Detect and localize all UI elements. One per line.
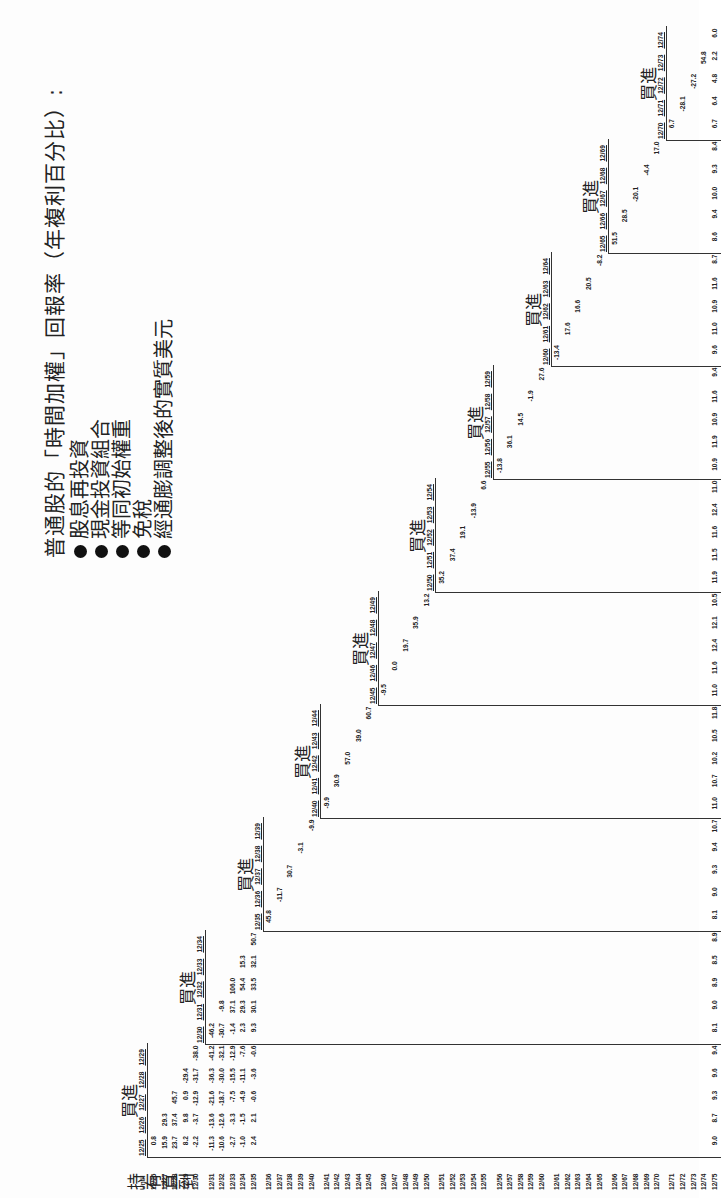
table-cell: 11.5 <box>711 548 718 568</box>
column-header: 12/60 <box>542 348 549 365</box>
table-cell: 12.4 <box>711 639 718 659</box>
table-cell: 15.3 <box>239 955 246 975</box>
row-label: 12/62 <box>564 1173 571 1190</box>
table-cell: 11.6 <box>711 277 718 297</box>
row-label: 12/53 <box>459 1173 466 1190</box>
table-cell: 36.1 <box>506 435 513 455</box>
row-label: 12/69 <box>643 1173 650 1190</box>
table-cell: 8.4 <box>711 142 718 162</box>
table-cell: -3.7 <box>192 1113 199 1133</box>
table-cell: -2.7 <box>229 1136 236 1156</box>
table-cell: 2.4 <box>250 1136 257 1156</box>
row-label: 12/38 <box>286 1173 293 1190</box>
column-header: 12/56 <box>484 439 491 456</box>
table-cell: -9.9 <box>308 820 315 840</box>
row-label: 12/51 <box>438 1173 445 1190</box>
table-cell: 9.4 <box>711 209 718 229</box>
table-cell: 12.1 <box>711 616 718 636</box>
table-cell: 6.7 <box>711 119 718 139</box>
table-cell: -10.6 <box>218 1136 225 1156</box>
column-header: 12/51 <box>426 552 433 569</box>
buy-label: 買進 <box>232 858 257 892</box>
table-cell: 10.5 <box>711 729 718 749</box>
table-cell: 37.1 <box>229 1000 236 1020</box>
buy-label: 買進 <box>289 745 314 779</box>
table-cell: 28.5 <box>621 209 628 229</box>
row-label: 12/74 <box>700 1173 707 1190</box>
table-cell: 2.1 <box>250 1113 257 1133</box>
table-cell: -11.3 <box>208 1136 215 1156</box>
column-header: 12/65 <box>599 235 606 252</box>
table-cell: 9.3 <box>711 865 718 885</box>
table-cell: 0.9 <box>182 1091 189 1111</box>
row-label: 12/63 <box>574 1173 581 1190</box>
row-label: 12/37 <box>276 1173 283 1190</box>
row-label: 12/49 <box>412 1173 419 1190</box>
header-rule <box>320 704 321 819</box>
table-cell: 27.6 <box>538 368 545 388</box>
table-cell: 9.6 <box>711 1068 718 1088</box>
column-header: 12/34 <box>196 936 203 953</box>
table-cell: -3.3 <box>229 1113 236 1133</box>
table-cell: -13.9 <box>470 503 477 523</box>
table-cell: -12.9 <box>229 1046 236 1066</box>
table-cell: -8.2 <box>596 255 603 275</box>
buy-label: 買進 <box>520 293 545 327</box>
table-cell: 6.4 <box>711 96 718 116</box>
row-label: 12/66 <box>611 1173 618 1190</box>
table-cell: -27.2 <box>690 74 697 94</box>
table-cell: 11.9 <box>711 435 718 455</box>
table-cell: 4.8 <box>711 74 718 94</box>
table-cell: 11.6 <box>711 390 718 410</box>
buy-label: 買進 <box>404 519 429 553</box>
row-label: 12/52 <box>449 1173 456 1190</box>
column-header: 12/45 <box>369 687 376 704</box>
block-rule <box>147 1157 720 1158</box>
row-label: 12/46 <box>380 1173 387 1190</box>
block-rule <box>205 1044 721 1045</box>
header-rule <box>205 930 206 1045</box>
row-label: 12/29 <box>182 1173 189 1190</box>
table-cell: -13.8 <box>496 458 503 478</box>
table-cell: 19.1 <box>459 526 466 546</box>
table-cell: -1.9 <box>527 390 534 410</box>
table-cell: 0.0 <box>391 661 398 681</box>
table-cell: 12.4 <box>711 503 718 523</box>
row-label: 12/33 <box>229 1173 236 1190</box>
table-cell: -7.6 <box>239 1046 246 1066</box>
row-label: 12/68 <box>632 1173 639 1190</box>
table-cell: 54.4 <box>239 978 246 998</box>
table-cell: 16.6 <box>574 300 581 320</box>
table-cell: 9.3 <box>711 1091 718 1111</box>
table-cell: 29.3 <box>239 1000 246 1020</box>
table-cell: 17.0 <box>653 142 660 162</box>
table-cell: 30.1 <box>250 1000 257 1020</box>
row-label: 12/61 <box>553 1173 560 1190</box>
table-cell: -9.8 <box>218 1000 225 1020</box>
row-label: 12/57 <box>506 1173 513 1190</box>
table-cell: 2.3 <box>239 1023 246 1043</box>
column-header: 12/39 <box>254 823 261 840</box>
table-cell: 8.9 <box>711 933 718 953</box>
table-cell: -13.4 <box>553 345 560 365</box>
table-cell: 11.0 <box>711 322 718 342</box>
column-header: 12/55 <box>484 461 491 478</box>
block-rule <box>378 705 721 706</box>
table-cell: -9.9 <box>323 797 330 817</box>
table-cell: 33.5 <box>250 978 257 998</box>
table-cell: -2.2 <box>192 1136 199 1156</box>
table-cell: -30.0 <box>218 1068 225 1088</box>
header-rule <box>378 591 379 706</box>
table-cell: 11.0 <box>711 684 718 704</box>
table-cell: 9.0 <box>711 887 718 907</box>
row-label: 12/31 <box>208 1173 215 1190</box>
block-rule <box>320 818 721 819</box>
column-header: 12/49 <box>369 597 376 614</box>
table-cell: -46.2 <box>208 1023 215 1043</box>
table-cell: 8.1 <box>711 1023 718 1043</box>
column-header: 12/69 <box>599 145 606 162</box>
row-label: 12/41 <box>323 1173 330 1190</box>
table-cell: -30.7 <box>218 1023 225 1043</box>
table-cell: 37.4 <box>171 1113 178 1133</box>
table-cell: 9.6 <box>711 345 718 365</box>
